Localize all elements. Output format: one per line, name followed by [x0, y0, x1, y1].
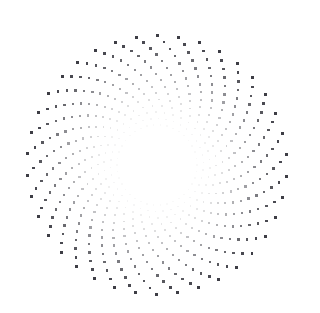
data-point — [240, 175, 242, 177]
data-point — [71, 167, 73, 169]
data-point — [166, 216, 168, 218]
data-point — [247, 171, 249, 173]
data-point — [189, 115, 191, 117]
data-point — [248, 224, 251, 227]
data-point — [186, 250, 188, 252]
data-point — [123, 123, 125, 125]
data-point — [226, 145, 228, 147]
data-point — [217, 213, 219, 215]
data-point — [90, 136, 92, 138]
data-point — [114, 214, 116, 216]
data-point — [111, 174, 113, 176]
data-point — [147, 210, 149, 212]
data-point — [134, 291, 137, 294]
data-point — [181, 278, 184, 281]
data-point — [40, 180, 43, 183]
data-point — [91, 219, 93, 221]
data-point — [127, 105, 129, 107]
data-point — [203, 162, 205, 164]
data-point — [152, 249, 154, 251]
data-point — [140, 201, 142, 203]
data-point — [136, 240, 138, 242]
data-point — [59, 201, 61, 203]
data-point — [114, 41, 117, 44]
data-point — [201, 258, 203, 260]
data-point — [73, 181, 75, 183]
data-point — [132, 218, 134, 220]
data-point — [129, 194, 131, 196]
data-point — [232, 201, 234, 203]
data-point — [201, 220, 203, 222]
data-point — [111, 136, 113, 138]
data-point — [253, 127, 255, 129]
data-point — [78, 176, 80, 178]
data-point — [224, 225, 226, 227]
data-point — [32, 167, 35, 170]
data-point — [118, 177, 120, 179]
data-point — [180, 103, 182, 105]
data-point — [224, 251, 227, 254]
data-point — [183, 135, 185, 137]
data-point — [220, 150, 222, 152]
data-point — [168, 267, 170, 269]
data-point — [202, 154, 204, 156]
data-point — [123, 132, 125, 134]
data-point — [263, 191, 266, 194]
data-point — [113, 244, 115, 246]
data-point — [157, 217, 159, 219]
data-point — [76, 61, 79, 64]
data-point — [144, 60, 146, 62]
data-point — [123, 235, 125, 237]
data-point — [113, 182, 115, 184]
data-point — [49, 225, 52, 228]
data-point — [271, 148, 274, 151]
data-point — [66, 89, 69, 92]
data-point — [156, 34, 159, 37]
data-point — [79, 150, 81, 152]
data-point — [161, 223, 163, 225]
data-point — [188, 214, 190, 216]
data-point — [59, 178, 61, 180]
data-point — [174, 273, 177, 276]
data-point — [80, 214, 82, 216]
data-point — [134, 232, 136, 234]
data-point — [184, 202, 186, 204]
data-point — [199, 83, 201, 85]
data-point — [137, 101, 139, 103]
data-point — [218, 50, 221, 53]
data-point — [200, 134, 202, 136]
data-point — [96, 79, 98, 81]
data-point — [200, 244, 202, 246]
data-point — [46, 155, 49, 158]
data-point — [259, 178, 261, 180]
data-point — [171, 107, 173, 109]
data-point — [236, 62, 239, 65]
data-point — [69, 208, 71, 210]
data-point — [232, 113, 234, 115]
data-point — [257, 208, 260, 211]
data-point — [210, 202, 212, 204]
data-point — [125, 92, 127, 94]
data-point — [191, 59, 194, 62]
data-point — [143, 228, 145, 230]
data-point — [177, 36, 180, 39]
data-point — [188, 122, 190, 124]
data-point — [65, 157, 67, 159]
data-point — [226, 181, 228, 183]
data-point — [249, 134, 251, 136]
data-point — [203, 128, 205, 130]
data-point — [267, 129, 270, 132]
data-point — [105, 152, 107, 154]
data-point — [97, 164, 99, 166]
data-point — [103, 161, 105, 163]
data-point — [70, 75, 73, 78]
data-point — [183, 43, 186, 46]
data-point — [166, 248, 168, 250]
data-point — [98, 154, 100, 156]
data-point — [75, 256, 78, 259]
data-point — [169, 286, 172, 289]
data-point — [134, 131, 136, 133]
data-point — [180, 218, 182, 220]
data-point — [198, 230, 200, 232]
data-point — [271, 121, 274, 124]
